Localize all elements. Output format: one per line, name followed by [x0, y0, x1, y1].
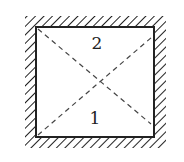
enclosure-diagram: 2 1 — [0, 0, 184, 162]
label-top: 2 — [92, 33, 103, 53]
label-bottom: 1 — [90, 108, 101, 128]
